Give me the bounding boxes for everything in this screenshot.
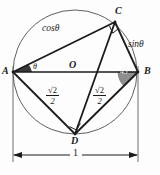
figure-canvas: [0, 0, 160, 175]
point-dot-A: [12, 71, 15, 74]
right-fraction-denominator: 2: [96, 97, 102, 106]
angle-label-theta: θ: [33, 63, 37, 71]
vertex-label-C: C: [115, 6, 122, 16]
chord-label-left-sqrt2-over-2: √2 2: [46, 86, 59, 106]
point-dot-B: [137, 71, 140, 74]
dimension-arrow-left: [13, 152, 22, 158]
vertex-label-A: A: [2, 66, 9, 76]
chord-label-sin-theta: sinθ: [128, 40, 144, 50]
right-fraction-numerator: √2: [94, 86, 105, 95]
left-fraction-numerator: √2: [47, 86, 58, 95]
chord-label-right-sqrt2-over-2: √2 2: [93, 86, 106, 106]
vertex-label-D: D: [71, 136, 78, 146]
angle-label-45-degrees: 45°: [120, 68, 131, 76]
geometry-figure: A B C D O cosθ sinθ √2 2 √2 2 θ 45° 1: [0, 0, 160, 175]
center-label-O: O: [69, 60, 76, 70]
vertex-label-B: B: [144, 66, 151, 76]
left-fraction-denominator: 2: [49, 97, 55, 106]
dimension-label-diameter: 1: [73, 148, 78, 158]
chord-label-cos-theta: cosθ: [42, 24, 59, 34]
chord-AD: [13, 72, 75, 134]
dimension-arrow-right: [129, 152, 138, 158]
point-dot-C: [114, 21, 117, 24]
